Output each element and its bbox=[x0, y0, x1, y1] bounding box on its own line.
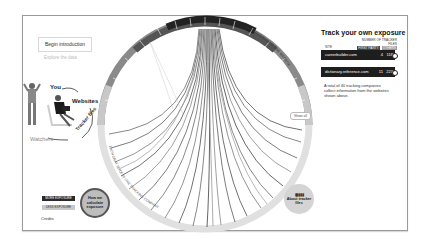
how-we-calculate-button[interactable]: How we calculate exposure bbox=[80, 188, 110, 218]
cycle-arrow-icon bbox=[62, 88, 78, 92]
watchers-label: Watchers bbox=[30, 136, 53, 142]
tracker-files-header: NUMBER OF TRACKER FILES bbox=[353, 38, 397, 46]
site-name: careerbuilder.com bbox=[325, 50, 357, 60]
site-column-label: SITE bbox=[325, 45, 332, 49]
credits-link[interactable]: Credits bbox=[41, 216, 54, 221]
track-exposure-title: Track your own exposure bbox=[321, 29, 405, 36]
tracker-chords bbox=[109, 29, 302, 227]
how-we-calculate-label: How we calculate exposure bbox=[82, 196, 108, 210]
tracker-column-header: NUMBER OF TRACKER FILES FIRST PARTY OTHE… bbox=[353, 38, 397, 50]
tracker-description: A total of 40 tracking companies collect… bbox=[324, 83, 392, 98]
explore-data-link[interactable]: Explore the data bbox=[44, 55, 77, 60]
begin-introduction-button[interactable]: Begin introduction bbox=[38, 37, 92, 52]
show-all-button[interactable]: Show all bbox=[290, 112, 311, 120]
site-name: dictionary.reference.com bbox=[325, 67, 369, 77]
select-toggle-icon[interactable] bbox=[392, 70, 398, 76]
about-tracker-files-button[interactable]: ▮▮▮ ▮▮ About tracker files bbox=[284, 184, 314, 214]
first-party-count: 11 bbox=[379, 67, 383, 77]
legend-less-exposure: LESS EXPOSURE bbox=[42, 205, 75, 210]
about-tracker-files-label: About tracker files bbox=[284, 197, 314, 205]
site-row-dictionary[interactable]: dictionary.reference.com 11 223 bbox=[321, 67, 395, 77]
legend-more-exposure: MORE EXPOSURE bbox=[42, 196, 75, 201]
select-toggle-icon[interactable] bbox=[392, 53, 398, 59]
site-row-careerbuilder[interactable]: careerbuilder.com 4 118 bbox=[321, 50, 395, 60]
you-label: You bbox=[50, 84, 61, 90]
seated-person-icon bbox=[48, 95, 74, 126]
standing-person-icon bbox=[24, 83, 40, 125]
first-party-count: 4 bbox=[381, 50, 383, 60]
chord-diagram[interactable]: EACH RED SLICE IS ONE WEBSITE EACH GRAY … bbox=[95, 14, 315, 236]
